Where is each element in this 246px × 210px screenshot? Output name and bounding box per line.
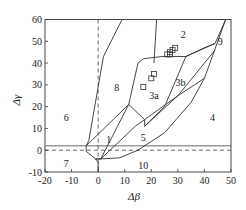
region-label-9: 9 [218,36,223,47]
y-tick-label: 50 [32,36,42,47]
region-label-8: 8 [114,82,119,93]
plot-frame [45,20,231,173]
y-tick-label: -10 [29,167,42,178]
phase-boundary [154,20,157,64]
x-axis-label: Δβ [127,190,140,202]
phase-boundary [186,43,215,56]
data-points [141,45,178,89]
y-tick-label: 40 [32,58,42,69]
region-label-10: 10 [138,160,148,171]
x-tick-label: 50 [226,175,236,186]
y-tick-label: 10 [32,123,42,134]
axis-ticks: -20-1001020304050-100102030405060 [29,14,236,186]
region-label-5: 5 [141,132,146,143]
x-tick-label: -10 [65,175,78,186]
x-tick-label: 0 [96,175,101,186]
y-tick-label: 0 [37,145,42,156]
y-tick-label: 60 [32,14,42,25]
x-tick-label: 40 [199,175,209,186]
region-label-6: 6 [64,112,69,123]
square-marker [141,85,146,90]
y-tick-label: 30 [32,79,42,90]
region-label-7: 7 [64,158,69,169]
boundary-lines [45,20,231,173]
region-label-3a: 3a [149,90,159,101]
region-label-3b: 3b [176,77,186,88]
phase-diagram: -20-1001020304050-100102030405060 123a3b… [0,0,246,210]
region-label-1: 1 [106,134,111,145]
phase-boundary [86,104,144,145]
phase-boundary [89,20,122,141]
y-tick-label: 20 [32,101,42,112]
region-label-2: 2 [181,29,186,40]
y-axis-label: Δγ [10,94,22,106]
x-tick-label: 20 [146,175,156,186]
region-label-4: 4 [210,112,215,123]
x-tick-label: 30 [173,175,183,186]
phase-boundary [101,104,129,158]
x-tick-label: 10 [120,175,130,186]
